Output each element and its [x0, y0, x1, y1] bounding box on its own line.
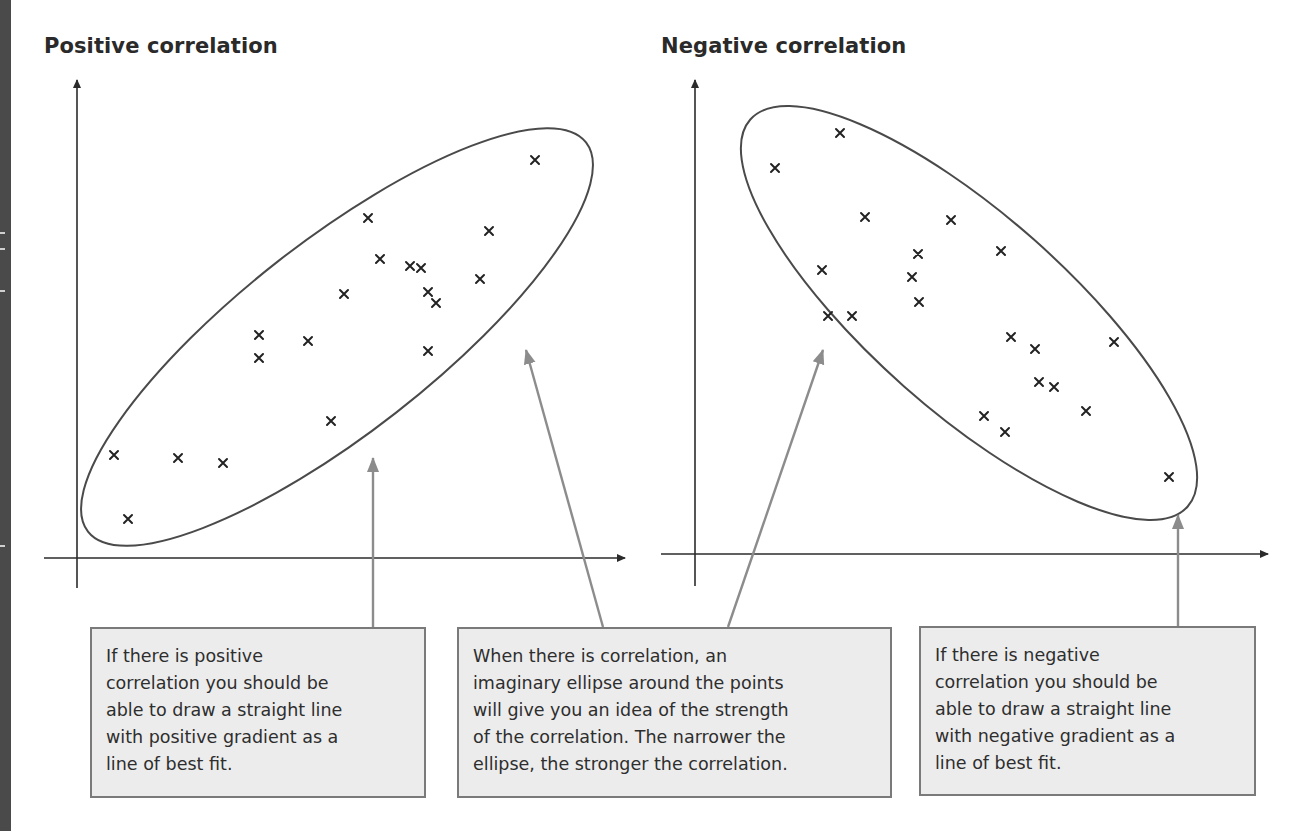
data-point-marker: [1031, 345, 1039, 353]
data-point-marker: [947, 216, 955, 224]
data-point-marker: [1110, 338, 1118, 346]
data-point-marker: [1165, 473, 1173, 481]
data-point-marker: [124, 515, 132, 523]
positive-ellipse: [29, 67, 645, 607]
data-point-marker: [406, 262, 414, 270]
data-point-marker: [848, 312, 856, 320]
data-point-marker: [364, 214, 372, 222]
data-point-marker: [1035, 378, 1043, 386]
data-point-marker: [1001, 428, 1009, 436]
data-point-marker: [1082, 407, 1090, 415]
data-point-marker: [1050, 383, 1058, 391]
data-point-marker: [327, 417, 335, 425]
data-point-marker: [304, 337, 312, 345]
data-point-marker: [174, 454, 182, 462]
data-point-marker: [824, 312, 832, 320]
negative-data-points: [771, 129, 1173, 481]
data-point-marker: [861, 213, 869, 221]
data-point-marker: [255, 331, 263, 339]
data-point-marker: [915, 298, 923, 306]
data-point-marker: [908, 273, 916, 281]
middle-note-box: When there is correlation, an imaginary …: [457, 627, 892, 798]
data-point-marker: [424, 347, 432, 355]
negative-chart-axes: [661, 80, 1268, 586]
middle-callout-arrow-right: [728, 350, 823, 627]
data-point-marker: [771, 164, 779, 172]
data-point-marker: [980, 412, 988, 420]
data-point-marker: [219, 459, 227, 467]
negative-note-box: If there is negative correlation you sho…: [919, 626, 1256, 796]
data-point-marker: [376, 255, 384, 263]
data-point-marker: [110, 451, 118, 459]
data-point-marker: [476, 275, 484, 283]
data-point-marker: [531, 156, 539, 164]
middle-callout-arrow-left: [526, 350, 603, 627]
data-point-marker: [340, 290, 348, 298]
data-point-marker: [1007, 333, 1015, 341]
data-point-marker: [424, 288, 432, 296]
positive-data-points: [110, 156, 539, 523]
data-point-marker: [432, 299, 440, 307]
data-point-marker: [417, 264, 425, 272]
positive-note-box: If there is positive correlation you sho…: [90, 627, 426, 798]
data-point-marker: [914, 250, 922, 258]
data-point-marker: [485, 227, 493, 235]
data-point-marker: [997, 247, 1005, 255]
data-point-marker: [836, 129, 844, 137]
data-point-marker: [818, 266, 826, 274]
data-point-marker: [255, 354, 263, 362]
